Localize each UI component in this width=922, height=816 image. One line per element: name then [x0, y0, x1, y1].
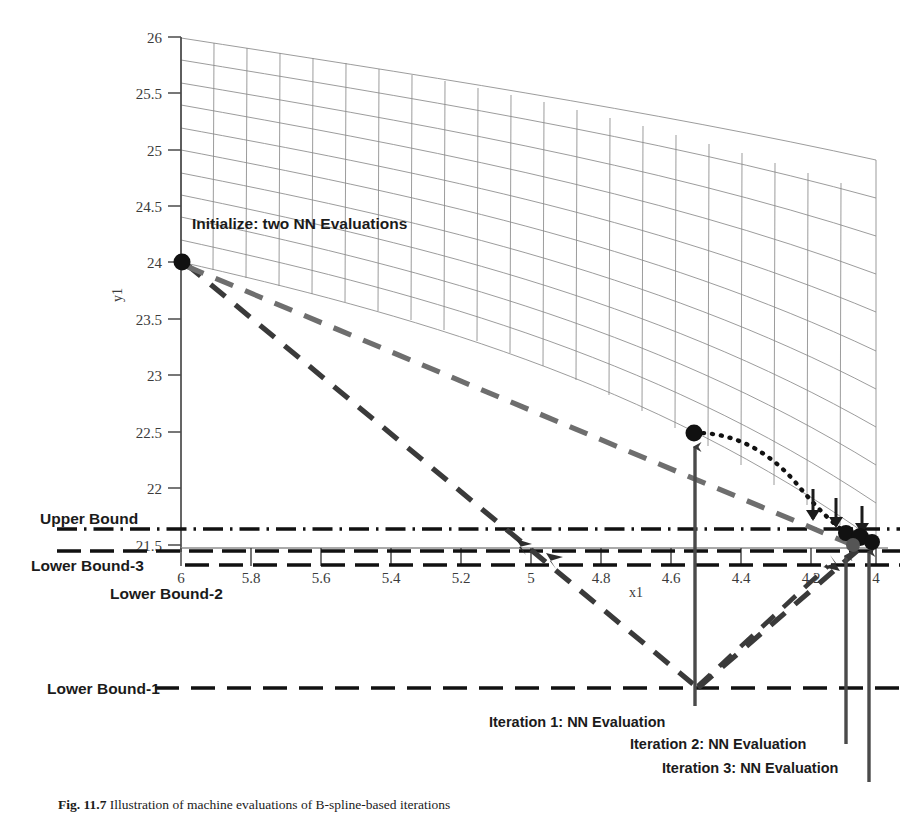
y-tick-label: 24.5: [136, 199, 162, 215]
x-axis-title: x1: [629, 585, 643, 600]
y-tick-label: 22: [147, 481, 162, 497]
x-axis: 6 5.8 5.6 5.4 5.2 5 4.8 4.6 4.4 4.2 4 x1: [177, 548, 888, 600]
figure-canvas: 26 25.5 25 24.5 24 23.5 23 22.5 22 21.5 …: [0, 0, 922, 816]
x-tick-label: 4: [872, 570, 880, 586]
annotation-initialize: Initialize: two NN Evaluations: [192, 215, 407, 232]
figure-caption: Fig. 11.7 Illustration of machine evalua…: [58, 796, 918, 814]
annotation-lower-bound-3: Lower Bound-3: [31, 557, 144, 574]
annotation-iteration-3: Iteration 3: NN Evaluation: [662, 760, 838, 776]
y-tick-label: 24: [147, 255, 163, 271]
y-tick-label: 23: [147, 368, 162, 384]
underestimator-secondary: [186, 266, 855, 546]
y-tick-label: 25: [147, 143, 162, 159]
marker-initialize-left: [174, 254, 191, 271]
y-tick-label: 22.5: [136, 425, 162, 441]
y-tick-label: 26: [147, 30, 163, 46]
annotation-iteration-2: Iteration 2: NN Evaluation: [630, 736, 806, 752]
figure-caption-label: Fig. 11.7: [58, 797, 106, 812]
y-axis-title: y1: [110, 288, 125, 302]
x-tick-label: 5: [527, 570, 535, 586]
underestimator-right-branch: [698, 550, 858, 688]
marker-cluster-d: [846, 538, 860, 552]
annotation-lower-bound-2: Lower Bound-2: [110, 585, 223, 602]
x-tick-label: 5.4: [382, 570, 401, 586]
x-tick-label: 4.8: [592, 570, 611, 586]
y-axis: 26 25.5 25 24.5 24 23.5 23 22.5 22 21.5 …: [110, 30, 181, 554]
figure-caption-text: Illustration of machine evaluations of B…: [110, 797, 450, 812]
underestimator-refine-left: [698, 566, 828, 686]
y-tick-label: 23.5: [136, 312, 162, 328]
y-tick-label: 25.5: [136, 86, 162, 102]
annotation-iteration-1: Iteration 1: NN Evaluation: [489, 714, 665, 730]
x-tick-label: 5.8: [242, 570, 261, 586]
x-tick-label: 6: [177, 570, 185, 586]
x-tick-label: 4.4: [732, 570, 751, 586]
x-tick-label: 5.6: [312, 570, 331, 586]
underestimator-left-branch: [186, 264, 693, 684]
figure-container: 26 25.5 25 24.5 24 23.5 23 22.5 22 21.5 …: [0, 0, 922, 816]
marker-iteration-1: [686, 425, 703, 442]
annotation-lower-bound-1: Lower Bound-1: [47, 680, 160, 697]
response-surface-mesh: [181, 38, 876, 545]
x-tick-label: 5.2: [452, 570, 471, 586]
annotation-upper-bound: Upper Bound: [40, 510, 138, 527]
marker-cluster-c: [864, 534, 880, 550]
x-tick-label: 4.6: [662, 570, 681, 586]
